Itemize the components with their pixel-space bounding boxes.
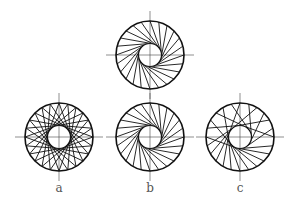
diagram-c-irregular-pattern [196, 93, 284, 181]
diagram-top-tangent-pattern [106, 11, 194, 99]
label-b: b [146, 182, 154, 194]
label-a: a [55, 182, 62, 194]
label-c: c [237, 182, 244, 194]
diagram-a-crossed-pattern [15, 93, 103, 181]
diagram-b-tangent-pattern [106, 93, 194, 181]
spoke-pattern-diagram [0, 0, 300, 207]
